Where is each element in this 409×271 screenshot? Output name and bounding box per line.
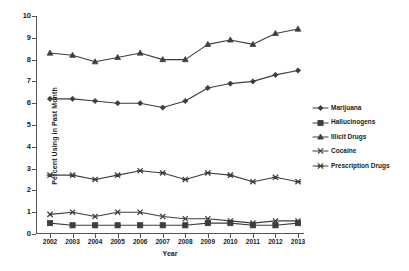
x-tick-label: 2008 xyxy=(178,239,192,246)
series-line xyxy=(50,171,298,182)
data-point-diamond xyxy=(160,105,165,110)
data-point-triangle xyxy=(137,50,143,55)
data-point-asterisk xyxy=(69,173,76,178)
y-tick-label: 4 xyxy=(27,143,31,151)
x-tick-label: 2005 xyxy=(110,239,124,246)
x-tick-label: 2004 xyxy=(88,239,102,246)
x-tick-label: 2002 xyxy=(43,239,57,246)
data-point-asterisk xyxy=(272,175,279,180)
x-tick-label: 2009 xyxy=(201,239,215,246)
legend-item-hallucinogens[interactable]: Hallucinogens xyxy=(312,115,408,129)
data-point-triangle xyxy=(228,37,234,42)
legend-marker-x-icon xyxy=(312,146,329,156)
series-illicit-drugs xyxy=(47,26,301,64)
legend-item-label: Marijuana xyxy=(331,105,361,112)
series-marijuana xyxy=(47,68,300,110)
data-point-diamond xyxy=(183,98,188,103)
y-tick-mark xyxy=(32,234,36,235)
data-point-square xyxy=(138,223,143,228)
data-point-asterisk xyxy=(137,168,144,173)
legend-item-label: Prescription Drugs xyxy=(331,163,390,170)
legend-marker-triangle-icon xyxy=(312,132,329,142)
data-point-triangle xyxy=(295,26,301,31)
y-tick-label: 1 xyxy=(27,208,31,216)
series-cocaine xyxy=(47,210,300,226)
x-tick-label: 2006 xyxy=(133,239,147,246)
x-tick-label: 2003 xyxy=(65,239,79,246)
data-point-diamond xyxy=(138,101,143,106)
data-point-asterisk xyxy=(159,170,166,175)
data-point-asterisk xyxy=(47,173,54,178)
y-tick-label: 10 xyxy=(23,12,31,20)
line-chart: Percent Using in Past Month 012345678910… xyxy=(0,0,409,271)
legend-item-label: Hallucinogens xyxy=(331,119,375,126)
data-point-asterisk xyxy=(92,177,99,182)
data-point-square xyxy=(183,223,188,228)
legend-item-prescription-drugs[interactable]: Prescription Drugs xyxy=(312,159,408,173)
chart-legend: MarijuanaHallucinogensIllicit DrugsCocai… xyxy=(312,101,408,173)
data-point-asterisk xyxy=(114,173,121,178)
y-tick-label: 9 xyxy=(27,34,31,42)
data-point-diamond xyxy=(47,96,52,101)
data-point-square xyxy=(115,223,120,228)
x-tick-label: 2012 xyxy=(268,239,282,246)
legend-marker-square-icon xyxy=(312,118,329,128)
data-point-asterisk xyxy=(250,179,257,184)
data-point-diamond xyxy=(228,81,233,86)
data-point-asterisk xyxy=(317,163,324,168)
data-point-asterisk xyxy=(205,170,212,175)
data-point-triangle xyxy=(47,50,53,55)
legend-marker-asterisk-icon xyxy=(312,161,329,171)
y-tick-label: 8 xyxy=(27,56,31,64)
y-tick-label: 7 xyxy=(27,78,31,86)
x-tick-label: 2010 xyxy=(223,239,237,246)
series-line xyxy=(50,29,298,62)
data-point-square xyxy=(318,120,323,125)
data-point-square xyxy=(47,221,52,226)
data-point-asterisk xyxy=(227,173,234,178)
data-point-asterisk xyxy=(295,179,302,184)
series-line xyxy=(50,223,298,225)
data-point-diamond xyxy=(318,106,323,111)
legend-marker-diamond-icon xyxy=(312,103,329,113)
y-tick-label: 5 xyxy=(27,121,31,129)
y-tick-label: 3 xyxy=(27,165,31,173)
series-line xyxy=(50,71,298,108)
y-tick-label: 6 xyxy=(27,99,31,107)
data-point-square xyxy=(92,223,97,228)
data-point-square xyxy=(160,223,165,228)
series-plot xyxy=(36,16,304,234)
series-prescription-drugs xyxy=(47,168,302,184)
data-point-diamond xyxy=(115,101,120,106)
data-point-diamond xyxy=(205,85,210,90)
data-point-diamond xyxy=(92,98,97,103)
data-point-diamond xyxy=(273,72,278,77)
y-tick-label: 0 xyxy=(27,230,31,238)
x-axis-title: Year xyxy=(36,250,304,257)
x-tick-label: 2013 xyxy=(291,239,305,246)
series-hallucinogens xyxy=(47,221,300,228)
legend-item-label: Illicit Drugs xyxy=(331,134,366,141)
legend-item-marijuana[interactable]: Marijuana xyxy=(312,101,408,115)
legend-item-label: Cocaine xyxy=(331,148,356,155)
data-point-diamond xyxy=(295,68,300,73)
data-point-square xyxy=(70,223,75,228)
series-line xyxy=(50,212,298,223)
x-tick-label: 2011 xyxy=(246,239,260,246)
y-tick-label: 2 xyxy=(27,187,31,195)
legend-item-cocaine[interactable]: Cocaine xyxy=(312,144,408,158)
data-point-diamond xyxy=(70,96,75,101)
legend-item-illicit-drugs[interactable]: Illicit Drugs xyxy=(312,130,408,144)
plot-area: 012345678910 200220032004200520062007200… xyxy=(36,16,304,234)
data-point-diamond xyxy=(250,79,255,84)
data-point-asterisk xyxy=(182,177,189,182)
x-tick-label: 2007 xyxy=(155,239,169,246)
